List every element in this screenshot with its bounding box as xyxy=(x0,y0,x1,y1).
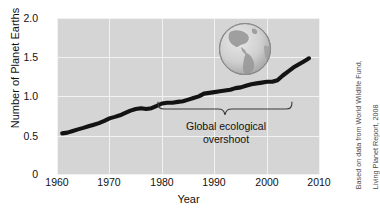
x-tick-label-2000: 2000 xyxy=(247,177,287,188)
overshoot-annotation-line2: overshoot xyxy=(160,133,292,146)
x-tick-label-2010: 2010 xyxy=(299,177,339,188)
overshoot-annotation-line1: Global ecological xyxy=(160,120,292,133)
overshoot-bracket-icon xyxy=(155,100,295,118)
data-line-footprint xyxy=(57,18,320,175)
y-axis-title: Number of Planet Earths xyxy=(9,0,21,138)
y-tick-label-0.5: 0.5 xyxy=(23,131,38,142)
x-tick-label-1970: 1970 xyxy=(89,177,129,188)
y-tick-label-2.0: 2.0 xyxy=(23,13,38,24)
y-tick-label-1.5: 1.5 xyxy=(23,52,38,63)
x-tick-label-1960: 1960 xyxy=(37,177,77,188)
x-axis-title: Year xyxy=(57,193,320,205)
source-credit-line1: Based on data from World Wildlife Fund, xyxy=(353,60,362,189)
x-tick-label-1980: 1980 xyxy=(142,177,182,188)
x-tick-label-1990: 1990 xyxy=(194,177,234,188)
source-credit-line2: Living Planet Report, 2008 xyxy=(371,104,380,189)
y-tick-label-1.0: 1.0 xyxy=(23,91,38,102)
overshoot-annotation-label: Global ecological overshoot xyxy=(160,120,292,145)
source-credit: Based on data from World Wildlife Fund, … xyxy=(346,21,380,189)
